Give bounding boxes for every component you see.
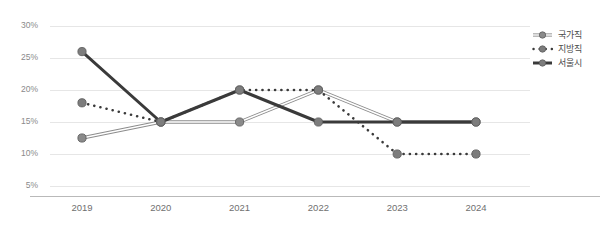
x-axis-tick-label: 2023 <box>387 202 408 213</box>
data-point-marker <box>157 118 165 126</box>
data-point-marker <box>236 86 244 94</box>
y-axis-labels: 5%10%15%20%25%30% <box>21 20 38 190</box>
data-point-marker <box>78 134 86 142</box>
chart-legend: 국가직지방직서울시 <box>533 30 582 68</box>
y-axis-tick-label: 25% <box>21 52 38 62</box>
y-axis-tick-label: 10% <box>21 148 38 158</box>
line-chart: 5%10%15%20%25%30% 2019202020212022202320… <box>0 0 613 234</box>
data-point-marker <box>472 150 480 158</box>
series-lines <box>82 52 476 154</box>
x-axis-tick-label: 2020 <box>150 202 171 213</box>
x-axis-tick-label: 2019 <box>71 202 92 213</box>
y-axis-tick-label: 15% <box>21 116 38 126</box>
series-line <box>82 52 476 122</box>
chart-canvas: 5%10%15%20%25%30% 2019202020212022202320… <box>0 0 613 234</box>
series-line-outer <box>82 90 476 138</box>
data-point-marker <box>393 118 401 126</box>
data-point-marker <box>78 99 86 107</box>
x-axis-tick-label: 2024 <box>465 202 486 213</box>
y-axis-tick-label: 30% <box>21 20 38 30</box>
gridlines <box>50 27 530 187</box>
legend-marker-sample <box>539 60 545 66</box>
legend-label: 국가직 <box>558 30 582 40</box>
data-point-marker <box>472 118 480 126</box>
legend-marker-sample <box>539 46 545 52</box>
data-point-marker <box>314 86 322 94</box>
data-point-marker <box>236 118 244 126</box>
y-axis-tick-label: 5% <box>26 180 39 190</box>
data-point-marker <box>314 118 322 126</box>
legend-item[interactable]: 국가직 <box>533 30 582 40</box>
y-axis-tick-label: 20% <box>21 84 38 94</box>
legend-marker-sample <box>539 32 545 38</box>
x-axis-tick-label: 2021 <box>229 202 250 213</box>
data-point-marker <box>393 150 401 158</box>
legend-label: 지방직 <box>558 44 582 54</box>
legend-label: 서울시 <box>558 58 582 68</box>
series-line-inner <box>82 90 476 138</box>
legend-item[interactable]: 서울시 <box>533 58 582 68</box>
x-axis-tick-label: 2022 <box>308 202 329 213</box>
data-point-marker <box>78 48 86 56</box>
legend-item[interactable]: 지방직 <box>534 44 583 54</box>
x-axis-labels: 201920202021202220232024 <box>71 202 486 213</box>
